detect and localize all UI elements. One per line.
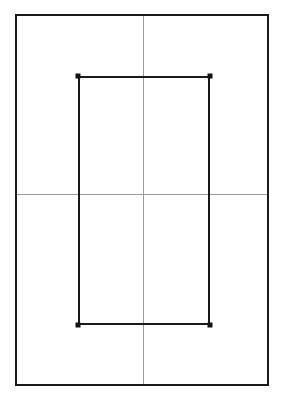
rectangle-diagram <box>0 0 282 402</box>
inner-bottom-right-vertex <box>208 323 213 328</box>
inner-bottom-left-vertex <box>76 323 81 328</box>
canvas-background <box>0 0 282 402</box>
diagram-canvas <box>0 0 282 402</box>
inner-top-left-vertex <box>76 74 81 79</box>
inner-top-right-vertex <box>208 74 213 79</box>
